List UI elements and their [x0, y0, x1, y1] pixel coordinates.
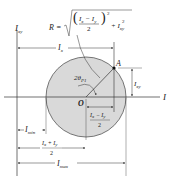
ixy-axis-label: Ixy — [14, 23, 23, 34]
center-o-label: O — [78, 99, 84, 108]
svg-text:(: ( — [73, 10, 78, 26]
svg-text:2: 2 — [98, 122, 101, 128]
svg-text:2: 2 — [107, 11, 110, 16]
radius-formula: R = ( Ix − Iy 2 ) 2 + Ixy 2 — [48, 10, 132, 36]
svg-text:Ix − Iy: Ix − Iy — [78, 15, 97, 24]
i-axis-label: I — [162, 92, 167, 102]
svg-text:2: 2 — [87, 25, 91, 33]
svg-text:Ix − Iy: Ix − Iy — [89, 112, 106, 119]
ixy-dimension-label: Ixy — [133, 80, 142, 89]
svg-text:R =: R = — [48, 23, 61, 32]
svg-text:): ) — [101, 10, 106, 26]
point-a-label: A — [115, 59, 121, 68]
svg-text:2: 2 — [50, 150, 53, 156]
svg-text:Ix + Iy: Ix + Iy — [41, 140, 58, 147]
svg-text:2: 2 — [122, 19, 125, 24]
mohrs-circle-diagram: Ixy I R = ( Ix − Iy 2 ) 2 + Ixy 2 Ix A I… — [0, 0, 174, 178]
